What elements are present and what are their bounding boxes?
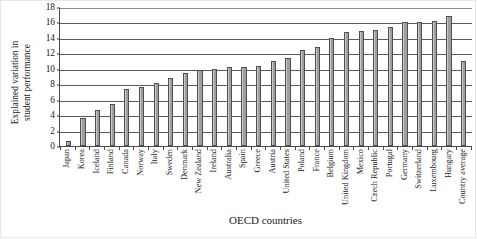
x-axis-tick-label: Canada xyxy=(122,149,130,174)
x-axis-label-slot: Poland xyxy=(295,148,310,214)
bar xyxy=(461,61,466,146)
x-axis-tick-label: Hungary xyxy=(445,149,453,178)
x-axis-tick-label: Iceland xyxy=(93,149,101,173)
bar xyxy=(432,21,437,146)
bars-layer xyxy=(60,8,472,146)
bar-slot xyxy=(442,8,457,146)
x-axis-label-slot: New Zealand xyxy=(192,148,207,214)
bar-slot xyxy=(76,8,91,146)
x-axis-tick-label: Ireland xyxy=(210,149,218,173)
y-axis-tick-label: 6 xyxy=(50,96,55,105)
x-axis-tick-label: Greece xyxy=(254,149,262,173)
x-axis-tick-label: Korea xyxy=(78,149,86,169)
x-axis-label-slot: France xyxy=(309,148,324,214)
x-axis-label-slot: Sweden xyxy=(163,148,178,214)
bar-slot xyxy=(383,8,398,146)
x-axis-label-slot: Australia xyxy=(221,148,236,214)
x-axis-tick-label: Switzerland xyxy=(415,149,423,189)
y-axis-tick-label: 0 xyxy=(50,142,55,151)
x-axis-label-slot: Finland xyxy=(104,148,119,214)
bar-slot xyxy=(120,8,135,146)
x-axis-label-slot: Germany xyxy=(397,148,412,214)
bar xyxy=(388,27,393,146)
x-axis-label-slot: Japan xyxy=(60,148,75,214)
bar-slot xyxy=(61,8,76,146)
x-axis-tick-label: Belgium xyxy=(327,149,335,178)
bar xyxy=(285,58,290,146)
y-axis-tick-label: 14 xyxy=(46,34,55,43)
bar xyxy=(256,66,261,146)
x-axis-label-slot: Canada xyxy=(119,148,134,214)
bar xyxy=(373,30,378,146)
x-axis-tick-labels: JapanKoreaIcelandFinlandCanadaNorwayItal… xyxy=(59,148,472,214)
bar xyxy=(197,70,202,146)
x-axis-tick-label: Japan xyxy=(63,149,71,168)
x-axis-label-slot: Norway xyxy=(133,148,148,214)
x-axis-tick-label: Austria xyxy=(269,149,277,173)
y-axis-tick-label: 2 xyxy=(50,127,55,136)
x-axis-tick-label: Germany xyxy=(401,149,409,180)
x-axis-tick-label: Australia xyxy=(225,149,233,179)
y-axis-tick-label: 18 xyxy=(46,3,55,12)
bar-slot xyxy=(368,8,383,146)
bar xyxy=(359,31,364,146)
bar xyxy=(183,73,188,146)
bar-slot xyxy=(281,8,296,146)
bar-slot xyxy=(237,8,252,146)
x-axis-label-slot: Greece xyxy=(251,148,266,214)
x-axis-tick-label: United Kingdom xyxy=(342,149,350,205)
bar xyxy=(241,67,246,146)
bar xyxy=(110,104,115,146)
bar xyxy=(446,16,451,146)
x-axis-label-slot: Luxembourg xyxy=(427,148,442,214)
bar-slot xyxy=(222,8,237,146)
x-axis-label-slot: Portugal xyxy=(383,148,398,214)
x-axis-tick-label: United States xyxy=(283,149,291,193)
y-axis-title: Explained variation in student performan… xyxy=(7,8,37,156)
bar xyxy=(402,22,407,146)
x-axis-label-slot: Mexico xyxy=(353,148,368,214)
bar xyxy=(227,67,232,146)
y-axis-tick-label: 10 xyxy=(46,65,55,74)
x-axis-label-slot: Spain xyxy=(236,148,251,214)
bar xyxy=(212,69,217,146)
x-axis-tick-label: France xyxy=(313,149,321,172)
x-axis-tick-label: Mexico xyxy=(357,149,365,174)
x-axis-label-slot: Switzerland xyxy=(412,148,427,214)
x-axis-label-slot: Denmark xyxy=(177,148,192,214)
y-axis-title-line-1: Explained variation in xyxy=(11,40,23,123)
x-axis-label-slot: Italy xyxy=(148,148,163,214)
bar-slot xyxy=(412,8,427,146)
x-axis-label-slot: Iceland xyxy=(89,148,104,214)
bar xyxy=(315,47,320,146)
bar-slot xyxy=(295,8,310,146)
x-axis-tick-label: Sweden xyxy=(166,149,174,175)
x-axis-label-slot: Austria xyxy=(265,148,280,214)
bar-slot xyxy=(251,8,266,146)
bar-slot xyxy=(310,8,325,146)
y-axis-title-line-2: student performance xyxy=(22,40,34,123)
x-axis-tick-label: Italy xyxy=(151,149,159,164)
y-axis-tick-label: 8 xyxy=(50,81,55,90)
x-axis-label-slot: United Kingdom xyxy=(339,148,354,214)
bar xyxy=(329,38,334,146)
bar xyxy=(300,50,305,146)
x-axis-tick-label: Luxembourg xyxy=(430,149,438,192)
bar-slot xyxy=(354,8,369,146)
x-axis-label-slot: Ireland xyxy=(207,148,222,214)
x-axis-label-slot: United States xyxy=(280,148,295,214)
plot-area xyxy=(59,8,472,147)
bar xyxy=(168,78,173,146)
x-axis-tick-label: Norway xyxy=(137,149,145,176)
bar-slot xyxy=(134,8,149,146)
x-axis-title: OECD countries xyxy=(59,214,472,226)
bar-slot xyxy=(163,8,178,146)
bar-slot xyxy=(325,8,340,146)
x-axis-tick-label: Czech Republic xyxy=(371,149,379,202)
x-axis-tick-label: Portugal xyxy=(386,149,394,177)
bar-slot xyxy=(207,8,222,146)
x-axis-tick-label: Poland xyxy=(298,149,306,172)
x-axis-label-slot: Korea xyxy=(75,148,90,214)
y-axis-tick-label: 4 xyxy=(50,111,55,120)
x-axis-label-slot: Hungary xyxy=(441,148,456,214)
